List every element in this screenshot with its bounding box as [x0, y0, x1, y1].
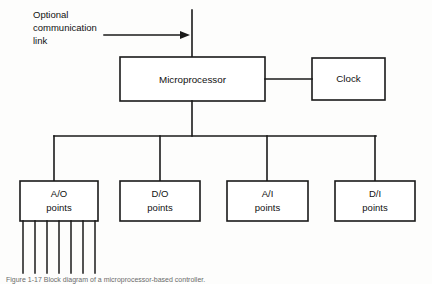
analog-input-label-line2: points	[255, 202, 281, 213]
figure-container: Microprocessor Clock A/O points D/O poin…	[0, 0, 432, 284]
comm-link-text-line3: link	[33, 35, 48, 46]
digital-input-label-line2: points	[362, 202, 388, 213]
block-diagram: Microprocessor Clock A/O points D/O poin…	[0, 0, 432, 284]
clock-label: Clock	[336, 73, 361, 84]
microprocessor-label: Microprocessor	[159, 74, 227, 85]
figure-caption: Figure 1-17 Block diagram of a microproc…	[6, 276, 306, 284]
analog-input-label-line1: A/I	[262, 188, 274, 199]
comm-link-text-line2: communication	[33, 22, 97, 33]
digital-output-label-line1: D/O	[152, 188, 169, 199]
analog-output-label-line2: points	[46, 202, 72, 213]
comm-link-arrow-head	[180, 31, 190, 39]
digital-output-label-line2: points	[147, 202, 173, 213]
analog-output-label-line1: A/O	[51, 188, 67, 199]
comm-link-text-line1: Optional	[33, 9, 68, 20]
digital-input-label-line1: D/I	[369, 188, 381, 199]
